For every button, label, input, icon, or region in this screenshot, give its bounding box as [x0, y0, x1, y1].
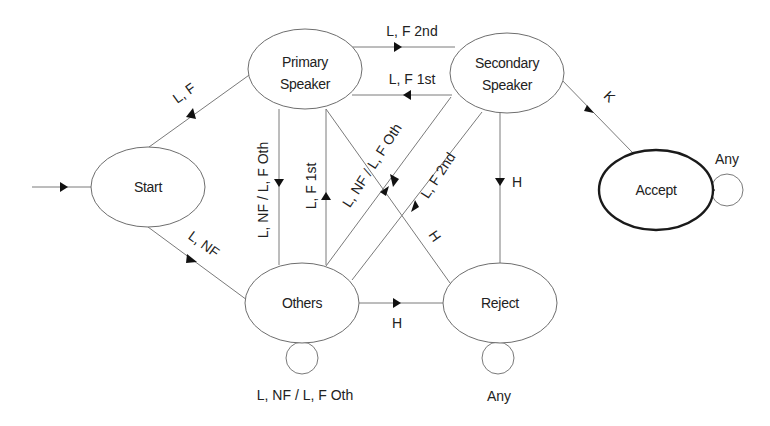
- node-accept: Accept: [599, 150, 713, 230]
- node-accept-label: Accept: [636, 182, 677, 198]
- node-primary-label-1: Primary: [282, 54, 328, 70]
- arrowhead-icon: [60, 182, 68, 192]
- node-secondary-label-1: Secondary: [475, 55, 540, 71]
- label-others-primary: L, F 1st: [303, 163, 319, 210]
- arrowhead-icon: [186, 254, 197, 263]
- label-primary-secondary: L, F 2nd: [386, 23, 437, 39]
- label-start-primary: L, F: [170, 79, 199, 106]
- label-others-reject: H: [392, 315, 402, 331]
- node-start-label: Start: [134, 179, 162, 195]
- node-primary-speaker: Primary Speaker: [248, 29, 362, 109]
- node-reject: Reject: [443, 263, 557, 343]
- arrowhead-icon: [403, 90, 411, 100]
- label-primary-others: L, NF / L, F Oth: [255, 142, 271, 238]
- label-secondary-reject: H: [512, 174, 522, 190]
- arrowhead-icon: [584, 105, 594, 113]
- label-reject-self: Any: [487, 388, 511, 404]
- label-secondary-primary: L, F 1st: [389, 71, 436, 87]
- node-start: Start: [91, 147, 205, 227]
- edge-secondary-accept: [558, 76, 632, 152]
- label-primary-reject: H: [426, 227, 445, 244]
- node-reject-label: Reject: [481, 295, 519, 311]
- arrowhead-icon: [321, 192, 331, 200]
- node-others-label: Others: [282, 295, 323, 311]
- node-secondary-speaker: Secondary Speaker: [450, 33, 564, 113]
- reject-self-loop: [482, 342, 514, 374]
- edge-others-secondary: [352, 112, 482, 280]
- arrowhead-icon: [394, 42, 402, 52]
- label-others-secondary: L, F 2nd: [417, 149, 458, 201]
- arrowhead-icon: [393, 298, 401, 308]
- arrowhead-icon: [186, 108, 196, 119]
- arrowhead-icon: [390, 174, 399, 187]
- node-others: Others: [245, 263, 359, 343]
- edge-start-primary: [149, 73, 252, 147]
- label-start-others: L, NF: [185, 227, 222, 260]
- label-others-self: L, NF / L, F Oth: [257, 387, 353, 403]
- node-primary-label-2: Speaker: [280, 76, 331, 92]
- label-secondary-others: L, NF / L, F Oth: [339, 120, 405, 210]
- state-diagram: Start Primary Speaker Secondary Speaker …: [0, 0, 770, 426]
- label-secondary-accept: K: [601, 88, 619, 106]
- arrowhead-icon: [495, 178, 505, 186]
- accept-self-loop: [711, 174, 743, 206]
- label-accept-self: Any: [715, 151, 739, 167]
- arrowhead-icon: [274, 179, 284, 187]
- node-secondary-label-2: Speaker: [482, 77, 533, 93]
- others-self-loop: [286, 342, 318, 374]
